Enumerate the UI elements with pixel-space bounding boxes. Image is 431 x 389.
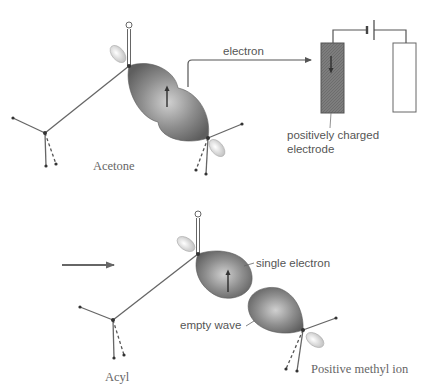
hydrogen-atom (295, 369, 298, 372)
sigma-bonding-orbital (128, 63, 209, 141)
small-orbital-lobe (107, 42, 129, 65)
positive-electrode (321, 43, 344, 113)
carbon-atom (301, 328, 305, 332)
acetone-molecule (11, 22, 243, 176)
acyl-label: Acyl (105, 370, 130, 384)
c-h-dashed-bond (45, 133, 56, 164)
hydrogen-atom (78, 305, 81, 308)
single-electron-label: single electron (256, 257, 330, 269)
small-orbital-lobe (303, 329, 326, 350)
carbon-atom (43, 131, 47, 135)
c-c-bond (113, 254, 198, 320)
positive-methyl-ion-label: Positive methyl ion (311, 362, 409, 376)
carbon-atom (206, 136, 210, 140)
single-electron-orbital (196, 251, 252, 298)
c-h-bond (45, 133, 46, 166)
methyl-ion (248, 287, 337, 372)
oxygen-atom (195, 211, 201, 217)
hydrogen-atom (204, 172, 207, 175)
hydrogen-atom (11, 116, 14, 119)
acetone-label: Acetone (93, 159, 135, 173)
c-h-bond (80, 307, 113, 320)
negative-electrode (393, 43, 416, 112)
empty-wave-label: empty wave (180, 319, 241, 331)
hydrogen-atom (284, 367, 287, 370)
carbon-atom (127, 64, 131, 68)
positive-electrode-label-line1: positively charged (287, 129, 379, 141)
hydrogen-atom (122, 353, 125, 356)
c-h-bond (303, 318, 336, 330)
electron-flow: electron (188, 45, 311, 87)
positive-electrode-label-line2: electrode (287, 143, 334, 155)
oxygen-atom (126, 22, 132, 28)
acyl-radical (78, 211, 252, 360)
leader-line (246, 321, 254, 326)
diagram-canvas: Acetone electron positively charged elec… (0, 0, 431, 389)
leader-line (330, 113, 331, 128)
c-c-bond (45, 66, 129, 133)
small-orbital-lobe (174, 233, 197, 254)
hydrogen-atom (112, 356, 115, 359)
c-h-bond (13, 118, 45, 133)
carbon-atom (111, 318, 115, 322)
hydrogen-atom (194, 168, 197, 171)
small-orbital-lobe (206, 136, 228, 159)
hydrogen-atom (334, 316, 337, 319)
carbon-atom (196, 252, 200, 256)
electrode-circuit: positively charged electrode (287, 20, 416, 155)
hydrogen-atom (240, 122, 243, 125)
hydrogen-atom (44, 164, 47, 167)
empty-orbital (248, 287, 303, 333)
electron-flow-arrow-icon (188, 60, 311, 87)
c-h-bond (208, 124, 242, 138)
c-h-bond (113, 320, 114, 358)
electron-label: electron (223, 45, 264, 57)
c-h-dashed-bond (113, 320, 124, 355)
hydrogen-atom (54, 162, 57, 165)
